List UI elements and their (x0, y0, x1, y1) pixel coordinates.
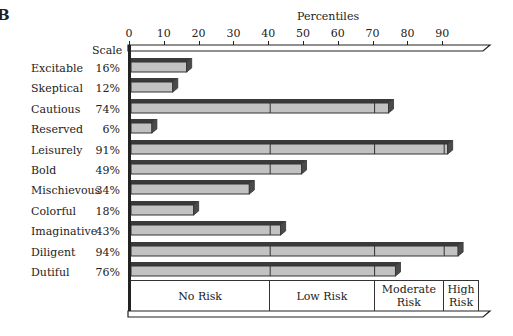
x-tick-label: 90 (435, 27, 449, 40)
x-tick-mark (164, 41, 165, 45)
percentile-value: 16% (80, 62, 120, 75)
risk-zone-no-risk: No Risk (131, 281, 270, 311)
x-tick-mark (373, 41, 374, 45)
risk-zone-low-risk: Low Risk (270, 281, 374, 311)
percentile-value: 91% (80, 144, 120, 157)
x-tick-label: 20 (192, 27, 206, 40)
percentile-bar (131, 242, 466, 258)
percentile-bar (131, 78, 181, 94)
percentile-value: 74% (80, 103, 120, 116)
x-tick-label: 10 (157, 27, 171, 40)
scale-label: Colorful (31, 205, 76, 218)
scale-label: Excitable (31, 62, 83, 75)
percentile-value: 18% (80, 205, 120, 218)
percentile-bar (131, 119, 160, 135)
percentile-bar (131, 201, 202, 217)
x-tick-mark (268, 41, 269, 45)
percentile-value: 34% (80, 184, 120, 197)
x-tick-label: 50 (296, 27, 310, 40)
scale-label: Reserved (31, 123, 83, 136)
scale-label: Diligent (31, 246, 75, 259)
risk-zone-moderate-risk: Moderate Risk (375, 281, 445, 311)
x-tick-label: 80 (400, 27, 414, 40)
percentile-bar (131, 140, 456, 156)
x-tick-mark (129, 41, 130, 45)
percentile-value: 12% (80, 82, 120, 95)
x-tick-label: 70 (366, 27, 380, 40)
risk-zone-high-risk: High Risk (444, 281, 479, 311)
percentile-bar (131, 221, 289, 237)
scale-label: Cautious (31, 103, 80, 116)
scale-label: Leisurely (31, 144, 83, 157)
risk-zone-band: No RiskLow RiskModerate RiskHigh Risk (131, 280, 479, 311)
percentile-value: 94% (80, 246, 120, 259)
percentile-value: 6% (80, 123, 120, 136)
scale-label: Dutiful (31, 266, 70, 279)
x-tick-label: 30 (226, 27, 240, 40)
percentile-value: 43% (80, 225, 120, 238)
percentile-bar (131, 99, 397, 115)
scale-label: Bold (31, 164, 56, 177)
x-tick-mark (407, 41, 408, 45)
x-tick-mark (338, 41, 339, 45)
percentile-value: 76% (80, 266, 120, 279)
percentile-bar (131, 262, 403, 278)
x-tick-label: 0 (126, 27, 133, 40)
x-tick-mark (233, 41, 234, 45)
percentile-value: 49% (80, 164, 120, 177)
percentile-bar (131, 58, 195, 74)
x-tick-mark (303, 41, 304, 45)
percentile-bar (131, 180, 257, 196)
x-tick-mark (199, 41, 200, 45)
x-tick-mark (442, 41, 443, 45)
x-tick-label: 60 (331, 27, 345, 40)
scale-label: Skeptical (31, 82, 83, 95)
x-tick-label: 40 (261, 27, 275, 40)
percentile-bar (131, 160, 310, 176)
